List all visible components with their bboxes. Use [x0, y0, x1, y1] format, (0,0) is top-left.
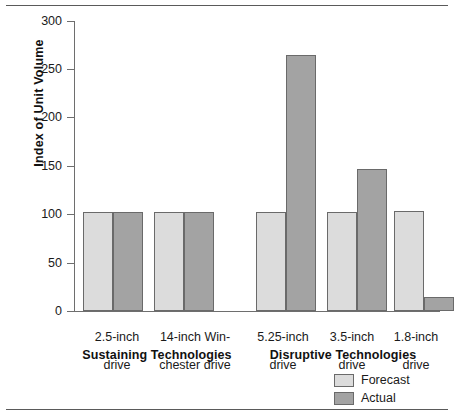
- bottom-divider-rule: [6, 409, 448, 410]
- x-category-label-2-line1: 5.25-inch: [257, 330, 308, 344]
- bar-actual-1: [184, 212, 214, 311]
- x-axis-line: [74, 311, 440, 312]
- plot-area: [74, 21, 440, 311]
- bar-actual-2: [286, 55, 316, 311]
- legend-swatch-forecast-icon: [334, 374, 354, 387]
- y-tick-label-200: 200: [22, 111, 62, 123]
- legend-item-forecast[interactable]: Forecast: [334, 372, 446, 388]
- legend-swatch-actual-icon: [334, 392, 354, 405]
- group-label-disruptive: Disruptive Technologies: [238, 348, 448, 362]
- bar-chart-figure: Index of Unit Volume 300 250 200 150 100…: [0, 0, 454, 416]
- x-category-label-4: 1.8-inch drive: [381, 316, 451, 372]
- legend-item-actual[interactable]: Actual: [334, 390, 446, 406]
- x-category-label-1: 14-inch Win- chester drive: [140, 316, 250, 372]
- bar-forecast-3: [327, 212, 357, 311]
- y-tick-label-150: 150: [22, 160, 62, 172]
- group-label-sustaining: Sustaining Technologies: [62, 348, 252, 362]
- y-tick-250: [67, 69, 74, 70]
- y-tick-label-0: 0: [22, 305, 62, 317]
- bar-forecast-0: [83, 212, 113, 311]
- top-divider-rule: [6, 5, 448, 6]
- y-tick-150: [67, 166, 74, 167]
- y-tick-label-250: 250: [22, 63, 62, 75]
- y-tick-300: [67, 21, 74, 22]
- x-category-label-0-line1: 2.5-inch: [95, 330, 139, 344]
- bar-actual-0: [113, 212, 143, 311]
- x-category-label-1-line1: 14-inch Win-: [160, 330, 230, 344]
- legend-label-forecast: Forecast: [361, 374, 410, 387]
- y-tick-label-100: 100: [22, 208, 62, 220]
- bar-forecast-1: [154, 212, 184, 311]
- bar-forecast-4: [394, 211, 424, 311]
- y-tick-100: [67, 214, 74, 215]
- bar-actual-3: [357, 169, 387, 311]
- y-tick-50: [67, 263, 74, 264]
- legend: Forecast Actual: [334, 372, 446, 408]
- x-category-label-3: 3.5-inch drive: [314, 316, 390, 372]
- bar-actual-4: [424, 297, 454, 312]
- y-tick-0: [67, 311, 74, 312]
- bar-forecast-2: [256, 212, 286, 311]
- x-category-label-3-line1: 3.5-inch: [330, 330, 374, 344]
- x-category-label-4-line1: 1.8-inch: [394, 330, 438, 344]
- y-tick-200: [67, 117, 74, 118]
- x-category-label-2: 5.25-inch drive: [242, 316, 324, 372]
- y-tick-label-50: 50: [22, 257, 62, 269]
- y-tick-label-300: 300: [22, 15, 62, 27]
- legend-label-actual: Actual: [361, 392, 396, 405]
